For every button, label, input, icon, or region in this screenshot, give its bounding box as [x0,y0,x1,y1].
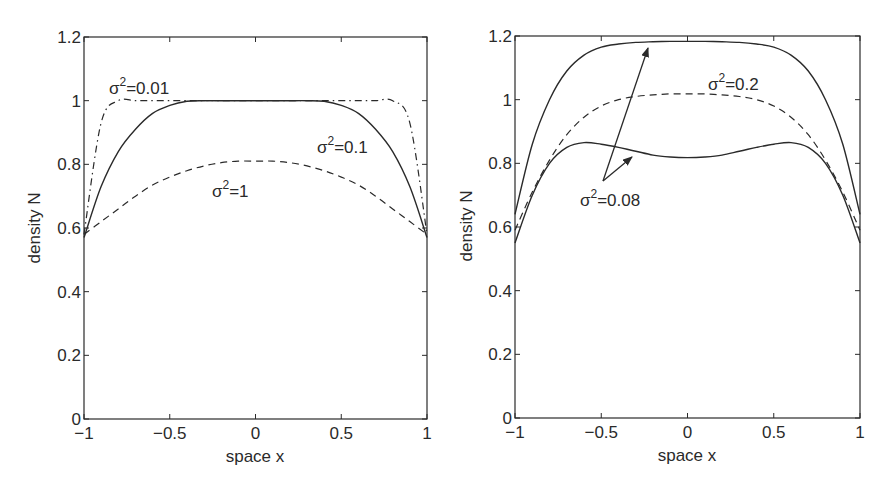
left-annotation-sigma-0.01: σ2=0.01 [109,75,169,98]
right-y-tick-label: 0 [503,409,512,428]
left-y-tick-label: 0 [72,410,81,429]
left-x-tick-label: −0.5 [153,424,187,443]
right-y-tick-label: 1.2 [488,27,512,46]
right-x-tick-label: 0.5 [762,423,786,442]
right-y-tick-label: 0.6 [488,218,512,237]
right-annotation-sigma-0.2: σ2=0.2 [708,71,759,94]
left-y-tick-label: 0.8 [57,155,81,174]
left-curve--1 [84,161,427,234]
right-curve--0.08-upper- [515,41,860,214]
left-curve--0.01 [84,99,427,234]
right-annotation-sigma-0.08: σ2=0.08 [580,187,640,210]
left-y-tick-label: 0.4 [57,283,81,302]
left-x-axis-label: space x [226,447,285,466]
left-x-tick-label: 1 [422,424,431,443]
left-y-tick-label: 1 [72,92,81,111]
right-plot-panel: −1−0.500.5100.20.40.60.811.2 σ2=0.2 σ2=0… [457,27,865,465]
right-y-axis-label: density N [457,191,476,262]
left-y-axis-label: density N [25,193,44,264]
right-x-tick-label: 1 [855,423,864,442]
right-x-tick-label: 0 [683,423,692,442]
right-x-tick-label: −0.5 [584,423,618,442]
left-y-tick-label: 0.6 [57,219,81,238]
arrow-to-upper-curve [603,48,648,181]
left-annotation-sigma-0.1: σ2=0.1 [317,134,368,157]
right-y-tick-label: 0.4 [488,282,512,301]
right-curve--0.08-lower- [515,142,860,242]
right-axis-ticks: −1−0.500.5100.20.40.60.811.2 [488,27,864,442]
left-y-tick-label: 1.2 [57,28,81,47]
left-annotation-sigma-1: σ2=1 [212,178,249,201]
right-x-axis-label: space x [658,446,717,465]
right-y-tick-label: 1 [503,91,512,110]
left-y-tick-label: 0.2 [57,346,81,365]
right-y-tick-label: 0.8 [488,154,512,173]
right-curves [515,41,860,243]
left-plot-panel: −1−0.500.5100.20.40.60.811.2 σ2=0.01 σ2=… [25,28,432,466]
left-x-tick-label: 0.5 [329,424,353,443]
left-x-tick-label: 0 [251,424,260,443]
left-curve--0.1 [84,101,427,238]
left-curves [84,99,427,238]
figure: −1−0.500.5100.20.40.60.811.2 σ2=0.01 σ2=… [0,0,895,489]
right-curve--0.2 [515,94,860,230]
right-y-tick-label: 0.2 [488,345,512,364]
